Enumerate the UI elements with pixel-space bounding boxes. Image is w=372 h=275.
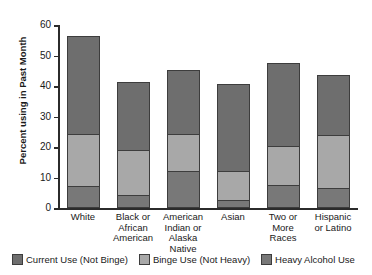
legend-item[interactable]: Binge Use (Not Heavy): [139, 254, 250, 265]
plot-area: 0102030405060: [58, 25, 358, 208]
x-axis-label-line: Alaska: [158, 233, 208, 244]
y-axis-title: Percent using in Past Month: [17, 21, 28, 181]
x-axis-label-line: Races: [258, 233, 308, 244]
bar-segment: [117, 82, 150, 151]
x-axis-label-line: Asian: [208, 212, 258, 223]
bar-segment: [67, 36, 100, 134]
bar-segment: [167, 134, 200, 171]
y-tick: [54, 208, 59, 210]
bar-column[interactable]: [317, 25, 350, 208]
bar-segment: [117, 150, 150, 194]
bar-segment: [217, 84, 250, 171]
y-tick-label: 30: [40, 112, 51, 122]
bar-column[interactable]: [117, 25, 150, 208]
x-axis-label-line: or Latino: [308, 223, 358, 234]
x-axis-label-line: American: [158, 212, 208, 223]
bar-segment: [317, 75, 350, 134]
x-axis-label-line: Native: [158, 244, 208, 255]
x-axis-label: Asian: [208, 212, 258, 223]
chart-legend: Current Use (Not Binge)Binge Use (Not He…: [12, 254, 364, 265]
x-axis-label-line: Black or: [108, 212, 158, 223]
x-axis-label: Two orMoreRaces: [258, 212, 308, 244]
y-tick-label: 60: [40, 20, 51, 30]
bar-segment: [267, 63, 300, 146]
bar-segment: [67, 186, 100, 208]
bar-segment: [167, 70, 200, 134]
bar-column[interactable]: [167, 25, 200, 208]
legend-label: Heavy Alcohol Use: [275, 254, 355, 265]
legend-label: Current Use (Not Binge): [26, 254, 128, 265]
x-axis-line: [58, 208, 358, 210]
legend-swatch: [139, 254, 150, 265]
legend-item[interactable]: Current Use (Not Binge): [12, 254, 128, 265]
bar-segment: [317, 188, 350, 208]
x-axis-label: Hispanicor Latino: [308, 212, 358, 233]
y-tick-label: 20: [40, 142, 51, 152]
x-axis-label: White: [58, 212, 108, 223]
bar-segment: [267, 146, 300, 185]
x-axis-label-line: Two or: [258, 212, 308, 223]
legend-swatch: [12, 254, 23, 265]
bar-segment: [317, 135, 350, 188]
x-axis-label-line: Hispanic: [308, 212, 358, 223]
legend-item[interactable]: Heavy Alcohol Use: [261, 254, 355, 265]
bar-column[interactable]: [67, 25, 100, 208]
y-tick-label: 10: [40, 173, 51, 183]
y-tick-label: 40: [40, 81, 51, 91]
x-axis-label: AmericanIndian orAlaskaNative: [158, 212, 208, 254]
x-axis-labels: WhiteBlack orAfricanAmericanAmericanIndi…: [58, 212, 358, 254]
legend-label: Binge Use (Not Heavy): [153, 254, 250, 265]
x-axis-label-line: White: [58, 212, 108, 223]
bar-column[interactable]: [217, 25, 250, 208]
bar-segment: [267, 185, 300, 208]
y-tick-label: 0: [45, 203, 51, 213]
bar-segment: [67, 134, 100, 186]
legend-swatch: [261, 254, 272, 265]
bar-segment: [217, 171, 250, 200]
x-axis-label-line: American: [108, 233, 158, 244]
bar-segment: [217, 200, 250, 208]
bar-segment: [117, 195, 150, 208]
stacked-bar-chart: Percent using in Past Month 010203040506…: [0, 0, 372, 275]
bar-column[interactable]: [267, 25, 300, 208]
x-axis-label: Black orAfricanAmerican: [108, 212, 158, 244]
bar-group: [58, 25, 358, 208]
bar-segment: [167, 171, 200, 209]
y-tick-label: 50: [40, 51, 51, 61]
